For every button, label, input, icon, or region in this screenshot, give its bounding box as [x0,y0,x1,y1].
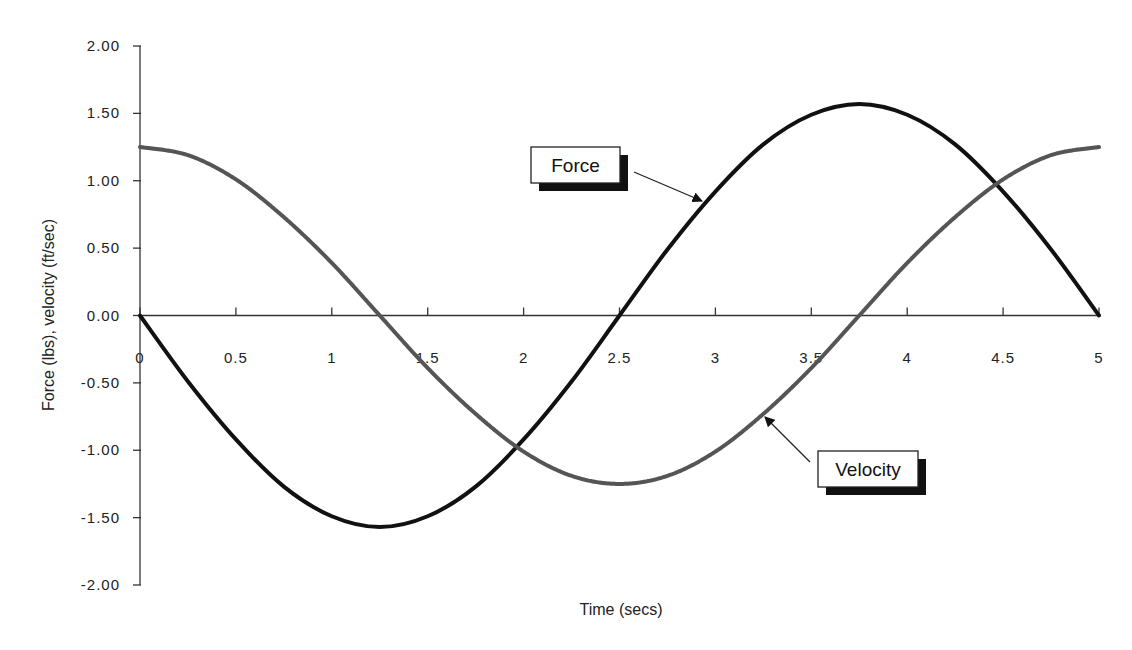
y-tick-label: 0.00 [87,307,120,324]
x-tick-label: 5 [1094,349,1103,366]
y-axis: 2.001.501.000.500.00-0.50-1.00-1.50-2.00 [81,37,141,593]
y-tick-label: 1.00 [87,172,120,189]
y-tick-label: -0.50 [81,374,120,391]
y-axis-title: Force (lbs), velocity (ft/sec) [40,219,57,411]
x-tick-label: 3 [711,349,720,366]
x-tick-label: 4.5 [991,349,1015,366]
y-tick-label: -2.00 [81,576,120,593]
x-tick-label: 0 [135,349,144,366]
callout-force: Force [531,147,702,201]
callout-velocity: Velocity [765,417,926,495]
x-axis-title: Time (secs) [580,601,663,618]
x-tick-label: 4 [903,349,912,366]
callout-arrow [765,417,810,462]
callout-label: Velocity [835,459,901,480]
y-tick-label: 2.00 [87,37,120,54]
y-tick-label: -1.00 [81,441,120,458]
x-tick-label: 1 [327,349,336,366]
y-tick-label: 1.50 [87,104,120,121]
y-tick-label: -1.50 [81,509,120,526]
x-tick-label: 2.5 [608,349,632,366]
x-tick-label: 2 [519,349,528,366]
x-tick-label: 0.5 [224,349,248,366]
callout-arrow [634,172,702,201]
y-tick-label: 0.50 [87,239,120,256]
callout-label: Force [551,155,600,176]
chart: 2.001.501.000.500.00-0.50-1.00-1.50-2.00… [0,0,1132,650]
